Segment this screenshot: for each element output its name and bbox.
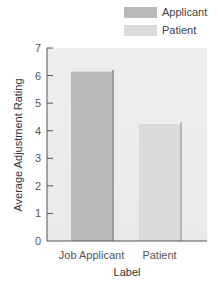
y-tick-label: 7 bbox=[35, 42, 41, 54]
bar-applicant bbox=[71, 70, 114, 241]
y-tick-label: 5 bbox=[35, 97, 41, 109]
x-tick-label: Patient bbox=[142, 249, 176, 261]
bar-chart: 01234567 Job ApplicantPatient Average Ad… bbox=[0, 0, 218, 287]
y-tick-label: 4 bbox=[35, 125, 41, 137]
legend-label-applicant: Applicant bbox=[162, 6, 207, 18]
y-tick-label: 6 bbox=[35, 70, 41, 82]
legend-label-patient: Patient bbox=[162, 24, 196, 36]
y-tick-label: 1 bbox=[35, 207, 41, 219]
x-tick-label: Job Applicant bbox=[59, 249, 124, 261]
bar-highlight bbox=[71, 70, 112, 72]
bar-highlight bbox=[139, 122, 180, 124]
legend-swatch-applicant bbox=[124, 7, 157, 18]
legend-swatch-patient bbox=[124, 25, 157, 36]
bar-fill bbox=[139, 122, 182, 241]
bar-patient bbox=[139, 122, 182, 241]
y-tick-label: 3 bbox=[35, 152, 41, 164]
bar-fill bbox=[71, 70, 114, 241]
y-tick-label: 2 bbox=[35, 180, 41, 192]
y-tick-label: 0 bbox=[35, 235, 41, 247]
legend: Applicant Patient bbox=[124, 6, 207, 36]
y-axis-title: Average Adjustment Rating bbox=[12, 78, 24, 211]
bar-edge bbox=[112, 70, 114, 241]
bar-edge bbox=[180, 122, 182, 241]
x-axis-title: Label bbox=[114, 266, 141, 278]
